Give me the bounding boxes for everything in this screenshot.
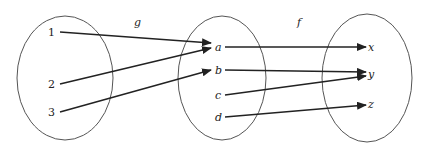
arrow-f-d-z — [225, 105, 366, 117]
element-y: y — [367, 68, 375, 81]
codomain-set-ellipse — [322, 14, 412, 142]
function-label-g: g — [134, 16, 141, 29]
arrow-f-b-y — [225, 70, 366, 72]
function-diagram: g f 1 2 3 a b c d x y z — [0, 0, 430, 147]
element-b: b — [215, 64, 222, 77]
element-2: 2 — [48, 78, 55, 91]
element-d: d — [215, 111, 222, 124]
element-z: z — [367, 98, 374, 111]
arrow-g-3-b — [60, 70, 211, 112]
function-label-f: f — [296, 16, 303, 29]
element-a: a — [215, 41, 222, 54]
element-x: x — [368, 41, 375, 54]
element-1: 1 — [48, 26, 55, 39]
arrow-g-2-a — [60, 48, 211, 84]
element-3: 3 — [48, 106, 55, 119]
element-c: c — [215, 89, 221, 102]
arrow-f-c-y — [225, 76, 366, 95]
